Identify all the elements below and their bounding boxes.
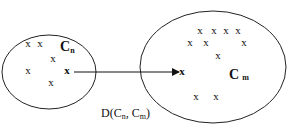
- data-point: x: [187, 36, 193, 48]
- data-point: x: [25, 64, 31, 76]
- data-point: x: [197, 24, 203, 36]
- cluster-m-points: xxxxxxxxxxx: [179, 24, 247, 102]
- data-point: x: [203, 36, 209, 48]
- data-point: x: [64, 64, 70, 76]
- data-point: x: [235, 24, 241, 36]
- data-point: x: [241, 36, 247, 48]
- data-point: x: [48, 76, 54, 88]
- data-point: x: [179, 65, 185, 77]
- data-point: x: [50, 52, 56, 64]
- data-point: x: [211, 24, 217, 36]
- distance-label: D(Cn, Cm): [101, 106, 150, 121]
- data-point: x: [213, 90, 219, 102]
- cluster-n-label: Cn: [60, 39, 75, 55]
- data-point: x: [223, 24, 229, 36]
- cluster-distance-diagram: xxxxxx xxxxxxxxxxx Cn Cm D(Cn, Cm): [0, 0, 288, 130]
- data-point: x: [37, 37, 43, 49]
- cluster-m-label: Cm: [229, 67, 249, 82]
- data-point: x: [25, 37, 31, 49]
- data-point: x: [215, 49, 221, 61]
- data-point: x: [193, 90, 199, 102]
